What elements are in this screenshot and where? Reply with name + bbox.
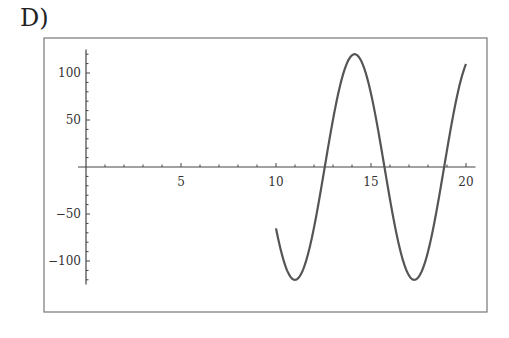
y-tick-label: −50	[56, 207, 81, 221]
line-chart: 510152010050−50−100	[0, 0, 509, 338]
x-tick-label: 15	[363, 175, 378, 189]
y-tick-label: 50	[66, 113, 81, 127]
y-tick-label: 100	[58, 66, 81, 80]
x-tick-label: 5	[177, 175, 185, 189]
x-tick-label: 20	[458, 175, 473, 189]
axes	[78, 50, 476, 285]
x-tick-label: 10	[268, 175, 283, 189]
plot-frame	[44, 38, 487, 312]
y-tick-label: −100	[48, 254, 81, 268]
